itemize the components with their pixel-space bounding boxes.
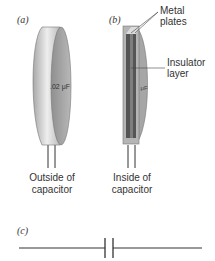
capacitor-outside bbox=[33, 27, 71, 168]
caption-outside: Outside of capacitor bbox=[22, 172, 82, 196]
caption-inside: Inside of capacitor bbox=[102, 172, 162, 196]
capacitance-partial-label: μF bbox=[140, 85, 147, 91]
capacitor-drawing: .02 μF μF bbox=[0, 0, 215, 261]
capacitance-value-label: .02 μF bbox=[50, 83, 70, 91]
capacitor-circuit-symbol bbox=[19, 238, 202, 258]
metal-plates-callout: Metal plates bbox=[160, 5, 187, 27]
insulator-layer-callout: Insulator layer bbox=[167, 57, 205, 79]
